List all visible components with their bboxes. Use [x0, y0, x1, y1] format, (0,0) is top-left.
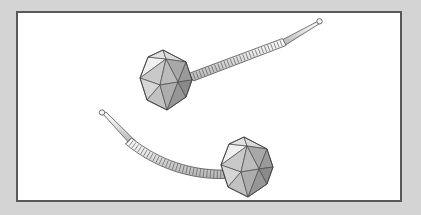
bacteriophage-figure: [0, 0, 421, 215]
phage-upper-tail-loop-icon: [317, 19, 322, 24]
phage-upper: [140, 19, 322, 110]
phage-lower-tail-sheath: [126, 138, 225, 179]
phage-upper-tail-tip: [281, 22, 320, 45]
phage-upper-tail: [189, 19, 323, 81]
phage-lower: [99, 110, 273, 197]
illustration-stage: [0, 0, 421, 215]
phage-lower-tail-loop-icon: [99, 110, 104, 115]
phage-lower-head: [221, 137, 273, 197]
phage-upper-head: [140, 50, 192, 110]
phage-lower-tail: [99, 110, 224, 179]
